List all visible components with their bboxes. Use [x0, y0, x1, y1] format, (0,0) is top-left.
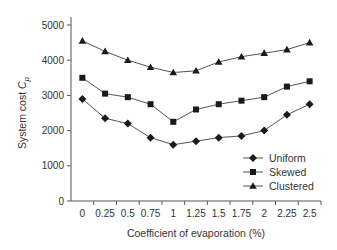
series-layer — [78, 37, 313, 149]
diamond-marker — [260, 127, 268, 135]
legend-item-skewed: Skewed — [243, 166, 307, 178]
series-uniform — [78, 95, 313, 149]
legend-item-clustered: Clustered — [243, 180, 314, 192]
legend-item-uniform: Uniform — [243, 152, 306, 164]
x-tick-label: 1.25 — [186, 208, 206, 219]
square-marker — [79, 75, 85, 81]
x-tick-label: 0.5 — [121, 208, 135, 219]
x-tick-label: 0 — [80, 208, 86, 219]
diamond-marker — [192, 137, 200, 145]
x-axis-title: Coefficient of evaporation (%) — [127, 227, 265, 239]
x-tick-label: 1.5 — [212, 208, 226, 219]
diamond-marker — [237, 132, 245, 140]
x-tick-label: 1.75 — [232, 208, 252, 219]
legend-diamond-icon — [249, 154, 257, 162]
y-tick-label: 3000 — [42, 90, 65, 101]
legend-label: Skewed — [269, 166, 307, 178]
triangle-marker — [79, 37, 87, 44]
series-skewed — [79, 75, 312, 125]
y-axis-title-subscript: p — [22, 76, 31, 82]
x-tick-label: 2 — [261, 208, 267, 219]
x-axis: 00.250.50.7511.251.51.7522.252.5 — [71, 201, 321, 219]
triangle-marker — [306, 39, 314, 46]
x-tick-label: 1 — [170, 208, 176, 219]
diamond-marker — [169, 141, 177, 149]
x-tick-label: 2.5 — [303, 208, 317, 219]
square-marker — [148, 101, 154, 107]
y-tick-label: 1000 — [42, 160, 65, 171]
diamond-marker — [306, 100, 314, 108]
square-marker — [102, 91, 108, 97]
x-tick-label: 0.25 — [95, 208, 115, 219]
series-line — [82, 78, 309, 122]
line-chart: 010002000300040005000 00.250.50.7511.251… — [0, 0, 337, 250]
series-clustered — [79, 37, 314, 75]
legend-label: Uniform — [269, 152, 306, 164]
diamond-marker — [124, 120, 132, 128]
square-marker — [307, 78, 313, 84]
diamond-marker — [147, 134, 155, 142]
triangle-marker — [101, 48, 109, 55]
y-tick-label: 2000 — [42, 125, 65, 136]
legend-square-icon — [250, 169, 256, 175]
legend: UniformSkewedClustered — [243, 152, 314, 192]
square-marker — [238, 98, 244, 104]
legend-label: Clustered — [269, 180, 314, 192]
y-tick-label: 0 — [58, 196, 64, 207]
diamond-marker — [215, 134, 223, 142]
square-marker — [261, 94, 267, 100]
x-tick-label: 2.25 — [277, 208, 297, 219]
y-axis-title: System cost Cp — [16, 76, 31, 149]
square-marker — [125, 94, 131, 100]
x-tick-label: 0.75 — [141, 208, 161, 219]
y-axis: 010002000300040005000 — [42, 17, 71, 207]
square-marker — [193, 106, 199, 112]
square-marker — [170, 119, 176, 125]
diamond-marker — [283, 111, 291, 119]
y-axis-title-text: System cost — [16, 89, 28, 149]
y-tick-label: 4000 — [42, 55, 65, 66]
y-tick-label: 5000 — [42, 20, 65, 31]
square-marker — [284, 84, 290, 90]
square-marker — [216, 101, 222, 107]
